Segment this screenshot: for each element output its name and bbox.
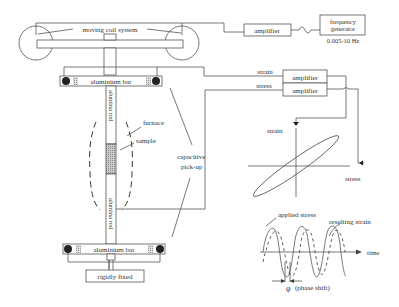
sample-label: sample bbox=[136, 137, 156, 145]
svg-text:amplifier: amplifier bbox=[292, 87, 318, 95]
svg-text:capacitive: capacitive bbox=[177, 153, 205, 161]
coil-beam bbox=[37, 40, 183, 48]
alumina-rod: alumina rod alumina rod bbox=[106, 86, 116, 244]
svg-text:aluminium bar: aluminium bar bbox=[93, 246, 135, 254]
ac-signal-icon bbox=[299, 27, 311, 33]
svg-text:strain: strain bbox=[257, 68, 273, 76]
resulting-strain-curve bbox=[263, 230, 345, 276]
svg-text:pick-up: pick-up bbox=[181, 163, 203, 171]
svg-text:stress: stress bbox=[256, 82, 272, 90]
arrow-left-icon bbox=[359, 161, 363, 166]
svg-text:frequency: frequency bbox=[330, 18, 357, 25]
svg-text:rigidly fixed: rigidly fixed bbox=[98, 273, 133, 281]
pivot-icon bbox=[62, 77, 70, 85]
pivot-icon bbox=[64, 245, 72, 253]
arrow-down-icon bbox=[293, 122, 299, 126]
moving-coil-label: moving coil system bbox=[83, 26, 138, 34]
plot-y-label: strain bbox=[267, 127, 283, 135]
hysteresis-plot: strain stress bbox=[248, 127, 361, 202]
svg-text:generator: generator bbox=[331, 25, 356, 32]
phi-symbol: φ bbox=[286, 284, 291, 293]
frequency-range: 0.005-10 Hz bbox=[327, 37, 360, 44]
pivot-icon bbox=[156, 245, 164, 253]
pivot-icon bbox=[152, 77, 160, 85]
applied-stress-label: applied stress bbox=[278, 211, 316, 219]
arrow-right-icon bbox=[356, 250, 362, 255]
svg-text:alumina rod: alumina rod bbox=[108, 198, 115, 230]
furnace: furnace sample bbox=[90, 119, 164, 210]
time-label: time bbox=[367, 249, 379, 257]
plot-x-label: stress bbox=[345, 175, 361, 183]
capacitive-pickup: capacitive pick-up bbox=[170, 88, 205, 237]
svg-text:amplifier: amplifier bbox=[254, 27, 280, 35]
resulting-strain-label: resulting strain bbox=[329, 218, 371, 226]
svg-text:amplifier: amplifier bbox=[292, 74, 318, 82]
svg-text:aluminium bar: aluminium bar bbox=[90, 78, 132, 86]
drive-chain: amplifier frequency generator 0.005-10 H… bbox=[182, 15, 365, 44]
dma-apparatus-diagram: moving coil system amplifier frequency g… bbox=[0, 0, 399, 307]
aluminium-bar-bottom: aluminium bar rigidly fixed bbox=[63, 244, 165, 282]
svg-text:alumina rod: alumina rod bbox=[108, 90, 115, 122]
sample-specimen bbox=[106, 144, 116, 174]
phase-shift-label: (phase shift) bbox=[295, 284, 330, 292]
furnace-label: furnace bbox=[143, 119, 164, 127]
waveform-plot: time applied stress resulting strain φ (… bbox=[260, 211, 379, 293]
